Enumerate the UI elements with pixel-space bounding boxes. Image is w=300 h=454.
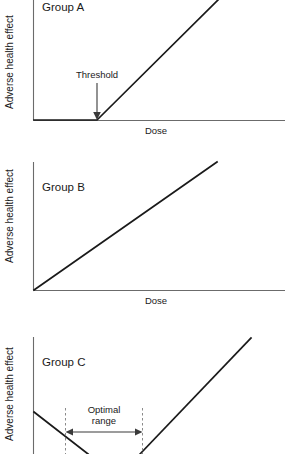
curve-group-c-descending <box>34 412 88 454</box>
chart-group-b: Adverse health effect Group B Dose <box>0 140 300 310</box>
threshold-annotation-label: Threshold <box>76 69 118 80</box>
y-axis-label-a: Adverse health effect <box>4 15 15 109</box>
chart-group-c: Adverse health effect Optimal range Grou… <box>0 310 300 454</box>
optimal-range-label-line1: Optimal <box>88 404 121 415</box>
curve-group-c-ascending <box>140 338 251 454</box>
optimal-range-arrow-head-right <box>135 429 143 436</box>
y-axis-label-c: Adverse health effect <box>4 347 15 441</box>
optimal-range-label-line2: range <box>92 415 116 426</box>
curve-group-a <box>34 0 221 120</box>
group-label-c: Group C <box>42 356 85 368</box>
group-label-b: Group B <box>42 181 85 193</box>
optimal-range-arrow-head-left <box>66 429 74 436</box>
y-axis-label-b: Adverse health effect <box>4 169 15 263</box>
x-axis-label-a: Dose <box>145 125 167 136</box>
dose-response-figure: Adverse health effect Group A Threshold … <box>0 0 300 454</box>
x-axis-label-b: Dose <box>145 295 167 306</box>
panel-group-a: Adverse health effect Group A Threshold … <box>0 0 300 140</box>
group-label-a: Group A <box>42 1 85 13</box>
chart-group-a: Adverse health effect Group A Threshold … <box>0 0 300 140</box>
threshold-arrow-head <box>93 112 101 120</box>
panel-group-b: Adverse health effect Group B Dose <box>0 140 300 310</box>
panel-group-c: Adverse health effect Optimal range Grou… <box>0 310 300 454</box>
